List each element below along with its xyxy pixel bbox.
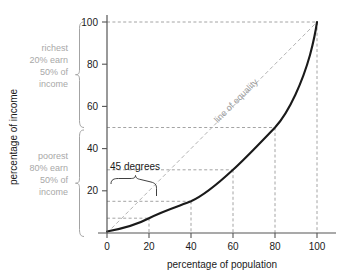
y-axis-title: percentage of income: [8, 88, 19, 185]
y-tick-label-40: 40: [87, 143, 99, 154]
richest-line-1: richest: [41, 43, 68, 53]
y-tick-label-20: 20: [87, 185, 99, 196]
richest-line-4: income: [39, 79, 68, 89]
poorest-line-2: 80% earn: [29, 163, 68, 173]
angle-pointer-brace: [111, 176, 157, 197]
poorest-line-3: 50% of: [40, 175, 69, 185]
richest-line-2: 20% earn: [29, 55, 68, 65]
richest-annotation: richest 20% earn 50% of income: [29, 43, 68, 89]
richest-line-3: 50% of: [40, 67, 69, 77]
poorest-brace: [76, 130, 85, 237]
richest-brace: [76, 22, 85, 128]
x-tick-label-60: 60: [227, 241, 239, 252]
x-axis-title: percentage of population: [167, 259, 277, 270]
chart-canvas: 100 80 60 40 20 0 20 40 60 80 100 percen…: [0, 0, 342, 278]
line-of-equality-label: line of equality: [212, 77, 260, 125]
x-tick-label-100: 100: [309, 241, 326, 252]
x-axis-ticks: [107, 233, 317, 238]
poorest-line-1: poorest: [38, 151, 69, 161]
x-tick-label-20: 20: [143, 241, 155, 252]
x-tick-label-80: 80: [269, 241, 281, 252]
poorest-line-4: income: [39, 187, 68, 197]
y-tick-label-80: 80: [87, 59, 99, 70]
lorenz-curve-chart: 100 80 60 40 20 0 20 40 60 80 100 percen…: [0, 0, 342, 278]
line-of-equality: [107, 22, 317, 233]
x-tick-label-0: 0: [104, 241, 110, 252]
angle-label: 45 degrees: [110, 161, 160, 172]
y-axis-ticks: [102, 22, 107, 191]
y-tick-label-60: 60: [87, 101, 99, 112]
poorest-annotation: poorest 80% earn 50% of income: [29, 151, 68, 197]
x-tick-label-40: 40: [185, 241, 197, 252]
